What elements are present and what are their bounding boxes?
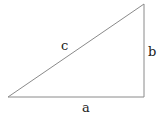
- right-triangle-diagram: c b a: [0, 0, 158, 114]
- triangle-shape: [8, 4, 144, 97]
- label-vertical-leg: b: [148, 44, 156, 59]
- label-horizontal-leg: a: [82, 100, 90, 114]
- label-hypotenuse: c: [61, 38, 68, 53]
